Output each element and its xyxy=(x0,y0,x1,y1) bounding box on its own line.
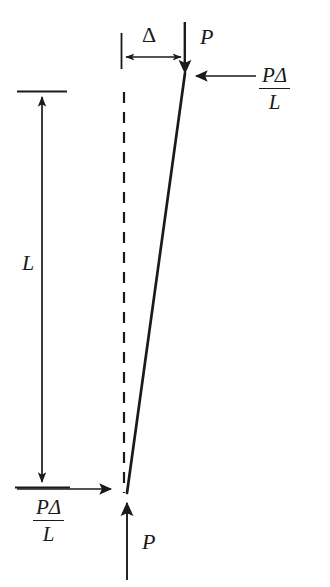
bottom-shear-numerator: PΔ xyxy=(33,496,64,519)
top-axial-load-label: P xyxy=(200,26,213,48)
length-dimension-group xyxy=(15,92,70,488)
bottom-shear-denominator: L xyxy=(33,522,64,545)
bottom-axial-load-label: P xyxy=(142,531,155,553)
top-shear-denominator: L xyxy=(259,90,290,113)
deflected-column-line xyxy=(127,73,185,493)
top-shear-force-label: PΔ L xyxy=(259,64,290,113)
bottom-shear-force-label: PΔ L xyxy=(33,496,64,545)
bottom-shear-fraction-rule xyxy=(33,520,64,521)
top-shear-numerator: PΔ xyxy=(259,64,290,87)
length-label: L xyxy=(22,252,34,274)
top-shear-fraction-rule xyxy=(259,88,290,89)
pdelta-column-diagram: L Δ P P PΔ L PΔ L xyxy=(0,0,330,587)
deflection-label: Δ xyxy=(142,24,156,46)
